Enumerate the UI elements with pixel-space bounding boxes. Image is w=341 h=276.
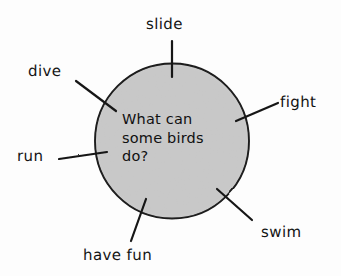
center-line-1: What can xyxy=(122,111,192,127)
word-web-diagram: What cansome birdsdo? slide dive fight r… xyxy=(0,0,341,276)
branch-label-fight: fight xyxy=(280,95,316,110)
branch-label-slide: slide xyxy=(146,17,183,32)
center-question-text: What cansome birdsdo? xyxy=(122,110,204,166)
branch-label-swim: swim xyxy=(261,225,301,240)
branch-label-run: run xyxy=(17,149,43,164)
center-line-3: do? xyxy=(122,148,148,164)
branch-label-have-fun: have fun xyxy=(83,248,152,263)
center-line-2: some birds xyxy=(122,130,204,146)
spoke-swim xyxy=(217,189,252,220)
branch-label-dive: dive xyxy=(28,64,61,79)
